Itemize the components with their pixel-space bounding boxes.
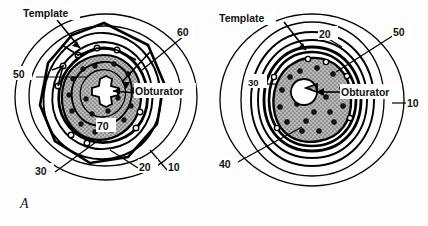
isodose-label-70: 70 — [97, 120, 109, 132]
seed-marker — [122, 118, 127, 123]
isodose-label-20: 20 — [139, 161, 151, 173]
seed-marker — [298, 69, 303, 74]
seed-marker — [129, 104, 134, 109]
figure-root: 60 50 30 20 10 70 Template Obturator — [0, 0, 428, 226]
seed-marker — [67, 93, 72, 98]
isodose-label-30: 30 — [35, 165, 47, 177]
seed-marker — [317, 129, 322, 134]
isodose-label-10: 10 — [168, 161, 180, 173]
seed-marker — [341, 104, 346, 109]
figure-caption: A — [20, 196, 29, 212]
seed-marker — [312, 110, 317, 115]
panel-a-isodose-plot: 60 50 30 20 10 70 Template Obturator — [0, 0, 214, 226]
seed-marker-outer — [68, 132, 74, 138]
seed-marker — [315, 66, 320, 71]
seed-marker — [112, 62, 117, 67]
panel-b-svg: Template 20 50 30 40 10 Obturator — [214, 0, 428, 226]
panel-b-isodose-plot: Template 20 50 30 40 10 Obturator — [214, 0, 428, 226]
seed-marker-outer — [323, 59, 328, 64]
obturator-shape — [291, 79, 317, 105]
isodose-label-60: 60 — [177, 26, 189, 38]
seed-marker — [93, 64, 98, 69]
obturator-label: Obturator — [135, 85, 183, 97]
seed-marker — [280, 88, 285, 93]
seed-marker — [328, 110, 333, 115]
isodose-label-20: 20 — [319, 28, 331, 40]
seed-marker — [90, 112, 95, 117]
seed-marker — [331, 72, 336, 77]
isodose-label-40: 40 — [219, 158, 231, 170]
panel-a-svg: 60 50 30 20 10 70 Template Obturator — [0, 0, 214, 226]
seed-marker — [81, 67, 86, 72]
seed-marker-outer — [133, 125, 139, 131]
seed-marker — [84, 97, 89, 102]
template-label: Template — [219, 12, 264, 24]
seed-marker-outer — [305, 56, 310, 61]
isodose-label-50: 50 — [13, 68, 25, 80]
seed-marker-outer — [137, 109, 143, 115]
leader-30 — [55, 142, 96, 172]
isodose-label-30: 30 — [248, 77, 259, 88]
seed-marker-outer — [274, 125, 279, 130]
seed-marker — [304, 119, 309, 124]
seed-marker — [278, 105, 283, 110]
seed-marker-outer — [84, 140, 90, 146]
seed-marker — [332, 120, 337, 125]
template-label: Template — [23, 7, 68, 19]
seed-marker-outer — [271, 74, 276, 79]
isodose-label-50: 50 — [393, 26, 405, 38]
seed-marker — [79, 122, 84, 127]
leader-40 — [236, 127, 302, 163]
seed-marker — [300, 129, 305, 134]
obturator-label: Obturator — [341, 86, 389, 98]
seed-marker — [70, 109, 75, 114]
seed-marker — [285, 120, 290, 125]
seed-marker — [106, 109, 111, 114]
seed-marker-outer — [347, 115, 352, 120]
seed-marker — [288, 75, 293, 80]
seed-marker-outer — [344, 73, 349, 78]
seed-marker — [324, 95, 329, 100]
isodose-label-10: 10 — [407, 97, 419, 109]
